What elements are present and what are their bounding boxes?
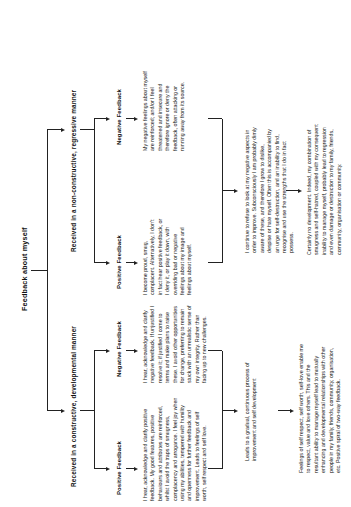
nonconstructive-outcome-arrow-2-icon bbox=[298, 190, 302, 194]
branch-arrow-nonconstructive-icon bbox=[61, 129, 65, 133]
nonconstructive-merge-right bbox=[208, 118, 222, 119]
cp-body-arrow-icon bbox=[134, 468, 138, 472]
branch-label-constructive: Received in a constructive, developmenta… bbox=[70, 326, 77, 487]
constructive-outcome-arrow-2-icon bbox=[290, 410, 294, 414]
outcome-label-constructive: Leads to a gradual, continuous process o… bbox=[244, 357, 259, 461]
outcome-body-constructive: Feelings of self respect, self worth, se… bbox=[298, 343, 342, 473]
flowchart-canvas: Feedback about myself Received in a cons… bbox=[0, 0, 351, 507]
constructive-negative-arrow-icon bbox=[106, 350, 110, 354]
constructive-merge-right bbox=[208, 350, 222, 351]
leaf-label-constructive-negative: Negative Feedback bbox=[116, 321, 122, 377]
branch-arrow-constructive-icon bbox=[61, 410, 65, 414]
constructive-positive-arrow-icon bbox=[106, 468, 110, 472]
np-body-arrow-icon bbox=[134, 262, 138, 266]
constructive-outcome-arrow-icon bbox=[234, 410, 238, 414]
leaf-body-nonconstructive-negative: My negative feelings about myself are re… bbox=[142, 71, 186, 151]
nn-body-arrow-icon bbox=[134, 118, 138, 122]
nonconstructive-split-bar bbox=[94, 119, 95, 263]
diagram-rotation-wrapper: Feedback about myself Received in a cons… bbox=[0, 0, 351, 507]
leaf-label-nonconstructive-positive: Positive Feedback bbox=[116, 235, 122, 289]
leaf-body-constructive-negative: I hear, acknowledge and clarify negative… bbox=[142, 301, 209, 383]
nonconstructive-negative-arrow-icon bbox=[106, 118, 110, 122]
root-split-bar bbox=[47, 130, 48, 411]
leaf-label-nonconstructive-negative: Negative Feedback bbox=[116, 89, 122, 145]
nonconstructive-outcome-arrow-icon bbox=[234, 190, 238, 194]
constructive-merge-left bbox=[208, 468, 222, 469]
constructive-split-bar bbox=[94, 351, 95, 469]
nonconstructive-merge-bar bbox=[222, 119, 223, 263]
leaf-label-constructive-positive: Positive Feedback bbox=[116, 441, 122, 495]
constructive-stem bbox=[80, 410, 94, 411]
leaf-body-constructive-positive: I hear, acknowledge and clarify positive… bbox=[142, 397, 209, 501]
root-stem bbox=[31, 270, 47, 271]
nonconstructive-merge-left bbox=[208, 262, 222, 263]
root-node-label: Feedback about myself bbox=[20, 227, 29, 311]
nonconstructive-stem bbox=[80, 129, 94, 130]
cn-body-arrow-icon bbox=[134, 350, 138, 354]
branch-label-nonconstructive: Received in a non-constructive, regressi… bbox=[70, 90, 77, 252]
leaf-body-nonconstructive-positive: I become proud, smug, complacent. Altern… bbox=[142, 217, 194, 295]
outcome-body-nonconstructive: Certainly no development. Indeed, my com… bbox=[306, 123, 343, 255]
nonconstructive-positive-arrow-icon bbox=[106, 262, 110, 266]
